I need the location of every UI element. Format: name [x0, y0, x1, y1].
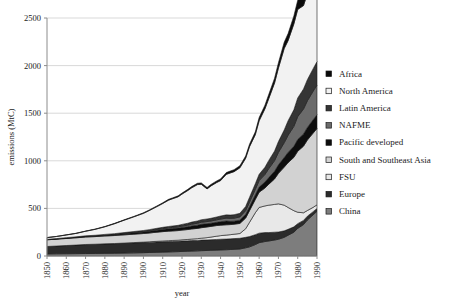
- x-tick-label-1960: 1960: [254, 262, 264, 279]
- y-axis-title: emissions (MtC): [6, 108, 16, 165]
- legend-label-africa: Africa: [339, 69, 362, 79]
- x-tick-label-1850: 1850: [42, 262, 52, 279]
- x-tick-label-1940: 1940: [216, 262, 226, 279]
- stacked-areas: [47, 0, 317, 256]
- legend-label-fsu: FSU: [339, 172, 356, 182]
- legend-item-latin-america[interactable]: Latin America: [326, 103, 391, 113]
- x-tick-label-1920: 1920: [177, 262, 187, 279]
- y-tick-label-1500: 1500: [24, 108, 41, 118]
- legend-label-latin-america: Latin America: [339, 103, 391, 113]
- y-tick-label-500: 500: [28, 203, 41, 213]
- legend-item-north-america[interactable]: North America: [326, 86, 393, 96]
- chart-svg: 05001000150020002500 1850186018701880189…: [0, 0, 454, 301]
- emissions-stacked-area-chart: 05001000150020002500 1850186018701880189…: [0, 0, 454, 301]
- legend-item-pacific-developed[interactable]: Pacific developed: [326, 137, 404, 147]
- legend-swatch-nafme: [326, 123, 332, 129]
- legend-swatch-pacific-developed: [326, 140, 332, 146]
- x-tick-label-1980: 1980: [293, 262, 303, 279]
- legend-swatch-north-america: [326, 88, 332, 94]
- legend-item-south-and-southeast-asia[interactable]: South and Southeast Asia: [326, 155, 431, 165]
- legend-item-fsu[interactable]: FSU: [326, 172, 356, 182]
- legend-swatch-china: [326, 209, 332, 215]
- y-axis-ticks: 05001000150020002500: [24, 13, 47, 261]
- x-tick-label-1930: 1930: [196, 262, 206, 279]
- legend-item-europe[interactable]: Europe: [326, 189, 365, 199]
- legend-label-europe: Europe: [339, 189, 365, 199]
- x-tick-label-1910: 1910: [158, 262, 168, 279]
- legend-swatch-latin-america: [326, 105, 332, 111]
- legend-swatch-africa: [326, 71, 332, 77]
- x-tick-label-1950: 1950: [235, 262, 245, 279]
- x-tick-label-1890: 1890: [119, 262, 129, 279]
- legend-label-north-america: North America: [339, 86, 393, 96]
- y-tick-label-1000: 1000: [24, 156, 41, 166]
- legend-swatch-south-and-southeast-asia: [326, 157, 332, 163]
- legend-item-nafme[interactable]: NAFME: [326, 120, 371, 130]
- legend-label-pacific-developed: Pacific developed: [339, 137, 404, 147]
- y-tick-label-2000: 2000: [24, 61, 41, 71]
- legend-swatch-fsu: [326, 174, 332, 180]
- legend-item-africa[interactable]: Africa: [326, 69, 362, 79]
- x-tick-label-1990: 1990: [312, 262, 322, 279]
- legend: AfricaNorth AmericaLatin AmericaNAFMEPac…: [326, 69, 431, 217]
- x-tick-label-1880: 1880: [100, 262, 110, 279]
- x-axis-ticks: 1850186018701880189019001910192019301940…: [42, 256, 322, 279]
- legend-label-china: China: [339, 206, 361, 216]
- x-tick-label-1860: 1860: [61, 262, 71, 279]
- x-tick-label-1970: 1970: [273, 262, 283, 279]
- legend-swatch-europe: [326, 191, 332, 197]
- x-axis-title: year: [175, 288, 190, 298]
- x-tick-label-1900: 1900: [138, 262, 148, 279]
- legend-item-china[interactable]: China: [326, 206, 361, 216]
- x-tick-label-1870: 1870: [81, 262, 91, 279]
- legend-label-nafme: NAFME: [339, 120, 371, 130]
- legend-label-south-and-southeast-asia: South and Southeast Asia: [339, 155, 431, 165]
- y-tick-label-0: 0: [37, 251, 41, 261]
- y-tick-label-2500: 2500: [24, 13, 41, 23]
